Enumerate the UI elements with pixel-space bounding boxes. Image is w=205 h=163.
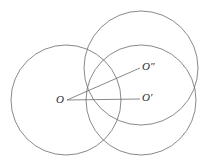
segment-O-to-O-prime <box>67 99 140 100</box>
label-center-o-prime: O′ <box>142 92 152 103</box>
label-center-o: O <box>56 94 64 105</box>
circle-O <box>11 45 121 155</box>
geometry-figure: O O′ O″ <box>0 0 205 163</box>
segment-O-to-O-double-prime <box>67 68 140 100</box>
circle-O-double-prime <box>84 11 198 125</box>
label-center-o-double-prime: O″ <box>142 61 155 72</box>
circle-O-prime <box>86 45 196 155</box>
figure-canvas <box>0 0 205 163</box>
